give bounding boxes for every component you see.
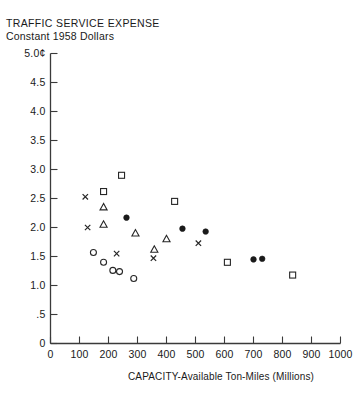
y-tick-label: 4.5 bbox=[30, 76, 45, 88]
x-tick-label: 0 bbox=[47, 348, 53, 360]
y-tick-label: 4.0 bbox=[30, 105, 45, 117]
data-point-open-triangle bbox=[100, 221, 107, 227]
y-axis: 0.51.01.52.02.53.03.54.04.55.0¢ bbox=[24, 47, 57, 349]
x-axis: 01002003004005006007008009001000 bbox=[47, 337, 352, 360]
data-point-open-circle bbox=[90, 249, 96, 255]
y-tick-label: .5 bbox=[36, 308, 45, 320]
data-point-x-mark bbox=[196, 240, 201, 245]
chart-root: TRAFFIC SERVICE EXPENSE Constant 1958 Do… bbox=[0, 0, 359, 396]
data-point-open-circle bbox=[131, 276, 137, 282]
data-point-open-circle bbox=[117, 269, 123, 275]
x-tick-label: 600 bbox=[215, 348, 233, 360]
x-tick-label: 400 bbox=[157, 348, 175, 360]
y-tick-label: 2.5 bbox=[30, 192, 45, 204]
y-tick-label: 1.0 bbox=[30, 279, 45, 291]
data-point-open-square bbox=[119, 172, 125, 178]
data-point-open-square bbox=[224, 259, 230, 265]
y-tick-label: 3.5 bbox=[30, 134, 45, 146]
data-point-open-square bbox=[101, 189, 107, 195]
y-tick-label: 3.0 bbox=[30, 163, 45, 175]
x-tick-label: 900 bbox=[302, 348, 320, 360]
y-tick-label: 0 bbox=[39, 337, 45, 349]
scatter-plot-svg: 0.51.01.52.02.53.03.54.04.55.0¢ 01002003… bbox=[0, 0, 359, 396]
data-markers bbox=[83, 172, 296, 281]
data-point-open-square bbox=[290, 272, 296, 278]
data-point-x-mark bbox=[114, 251, 119, 256]
data-point-open-square bbox=[172, 198, 178, 204]
x-tick-label: 1000 bbox=[328, 348, 352, 360]
data-point-x-mark bbox=[85, 225, 90, 230]
data-point-filled-circle bbox=[259, 256, 265, 262]
x-tick-label: 800 bbox=[273, 348, 291, 360]
data-point-open-circle bbox=[101, 259, 107, 265]
data-point-filled-circle bbox=[180, 226, 186, 232]
y-tick-label: 5.0¢ bbox=[24, 47, 45, 59]
x-tick-label: 200 bbox=[99, 348, 117, 360]
x-tick-label: 100 bbox=[70, 348, 88, 360]
data-point-open-triangle bbox=[100, 203, 107, 209]
y-tick-label: 2.0 bbox=[30, 221, 45, 233]
x-tick-label: 300 bbox=[128, 348, 146, 360]
data-point-x-mark bbox=[83, 194, 88, 199]
data-point-filled-circle bbox=[124, 215, 130, 221]
x-tick-label: 500 bbox=[186, 348, 204, 360]
x-axis-label: CAPACITY-Available Ton-Miles (Millions) bbox=[128, 371, 314, 382]
data-point-open-triangle bbox=[163, 235, 170, 241]
data-point-open-triangle bbox=[151, 246, 158, 252]
data-point-x-mark bbox=[151, 256, 156, 261]
y-tick-label: 1.5 bbox=[30, 250, 45, 262]
data-point-open-triangle bbox=[132, 230, 139, 236]
x-tick-label: 700 bbox=[244, 348, 262, 360]
data-point-filled-circle bbox=[251, 257, 257, 263]
data-point-filled-circle bbox=[203, 229, 209, 235]
data-point-open-circle bbox=[110, 267, 116, 273]
